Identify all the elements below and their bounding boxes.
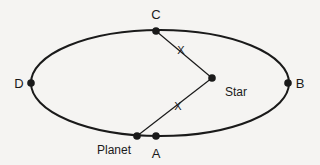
point-marker-planet [133, 132, 141, 140]
point-marker-a [152, 132, 160, 140]
point-marker-b [284, 79, 292, 87]
point-label-b: B [296, 77, 305, 90]
point-marker-c [152, 27, 160, 35]
orbit-diagram: C B D A Planet Star X X [0, 0, 320, 165]
point-label-d: D [14, 77, 23, 90]
point-label-a: A [152, 147, 161, 160]
orbit-diagram-canvas [0, 0, 320, 165]
distance-label-lower-x: X [174, 101, 181, 112]
point-label-planet: Planet [97, 144, 131, 156]
orbit-ellipse [31, 30, 289, 136]
point-label-star: Star [225, 86, 247, 98]
distance-label-upper-x: X [177, 45, 184, 56]
point-marker-star [208, 74, 216, 82]
point-marker-d [27, 79, 35, 87]
point-label-c: C [151, 8, 160, 21]
